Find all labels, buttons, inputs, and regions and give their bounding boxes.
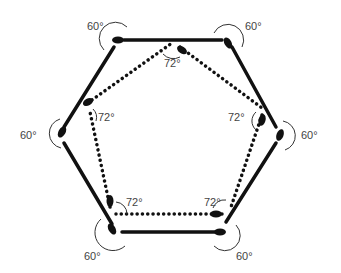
pentagon-vertices — [81, 44, 266, 218]
vertex-blob — [106, 222, 118, 236]
angle-label-72: 72° — [164, 58, 181, 69]
vertex-blob — [210, 211, 222, 218]
angle-label-72: 72° — [98, 112, 115, 123]
angle-arc-60 — [283, 121, 295, 150]
angle-label-60: 60° — [84, 251, 101, 262]
vertex-blob — [112, 37, 124, 44]
pentagon-edge — [92, 43, 172, 100]
vertex-blob — [275, 128, 286, 142]
angle-label-60: 60° — [301, 130, 318, 141]
angle-label-60: 60° — [236, 251, 253, 262]
vertex-blob — [175, 44, 188, 56]
angle-label-60: 60° — [20, 130, 37, 141]
hexagon-pentagon-diagram — [0, 0, 341, 273]
vertex-blob — [107, 195, 114, 207]
vertex-blob — [214, 229, 226, 236]
vertex-blob — [56, 125, 68, 139]
angle-label-72: 72° — [126, 197, 143, 208]
angle-label-72: 72° — [204, 197, 221, 208]
hexagon-edge-lower-right — [226, 143, 276, 222]
pentagon-edge — [230, 115, 262, 210]
angle-label-60: 60° — [87, 21, 104, 32]
pentagon-angle-arcs — [93, 54, 256, 214]
angle-label-60: 60° — [245, 21, 262, 32]
angle-arc-72 — [93, 109, 97, 121]
angle-label-72: 72° — [228, 112, 245, 123]
angle-arc-72 — [252, 112, 256, 130]
hexagon-edge-lower-left — [64, 143, 112, 224]
